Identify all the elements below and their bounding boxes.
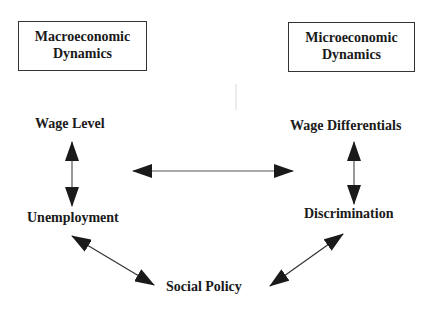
arrows-layer bbox=[0, 0, 438, 315]
arrow-discrimination-social-policy bbox=[270, 234, 343, 286]
arrow-unemployment-social-policy bbox=[72, 236, 154, 285]
